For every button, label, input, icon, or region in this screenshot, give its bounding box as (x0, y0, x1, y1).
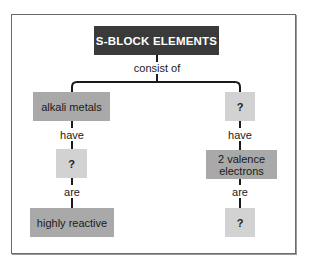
link-label-consist-of: consist of (133, 62, 181, 74)
node-unknown-right-top: ? (225, 92, 255, 121)
root-node-label: S-BLOCK ELEMENTS (96, 35, 217, 47)
root-node-s-block-elements: S-BLOCK ELEMENTS (94, 26, 219, 55)
node-label: ? (237, 101, 244, 113)
node-highly-reactive: highly reactive (30, 208, 114, 237)
node-label: alkali metals (41, 101, 102, 113)
link-label-have-right: have (227, 129, 253, 141)
node-label: 2 valence electrons (212, 153, 272, 177)
link-label-are-left: are (63, 186, 81, 198)
node-label: ? (237, 217, 244, 229)
link-label-are-right: are (231, 186, 249, 198)
node-2-valence-electrons: 2 valence electrons (206, 150, 277, 179)
link-label-have-left: have (59, 129, 85, 141)
node-label: ? (68, 158, 75, 170)
node-unknown-left-middle: ? (56, 149, 87, 178)
node-alkali-metals: alkali metals (33, 92, 110, 121)
node-unknown-right-bottom: ? (225, 208, 255, 237)
node-label: highly reactive (37, 217, 107, 229)
